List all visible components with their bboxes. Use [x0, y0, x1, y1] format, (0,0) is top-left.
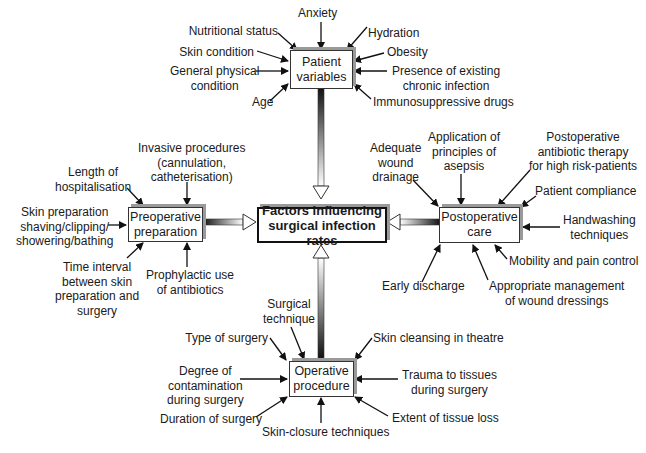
antib-line-3: for high risk-patients — [529, 159, 637, 173]
big-arrow-postop-to-center — [387, 214, 440, 230]
time-line-1: Time interval — [63, 260, 131, 274]
dress-line-2: of wound dressings — [505, 294, 608, 308]
factor-time-interval: Time intervalbetween skinpreparation and… — [55, 260, 139, 318]
technique-line-1: Surgical — [267, 297, 310, 311]
chronic-line-1: Presence of existing — [392, 64, 500, 78]
operative-procedure-box: Operativeprocedure — [289, 361, 354, 397]
drainage-line-1: Adequate — [370, 141, 421, 155]
factor-hydration: Hydration — [368, 26, 419, 41]
hand-line-2: techniques — [570, 228, 628, 242]
factor-skin-closure-techniques: Skin-closure techniques — [262, 425, 389, 440]
drainage-line-2: wound — [378, 156, 413, 170]
patient-title-2: variables — [296, 70, 346, 84]
skinprep-line-2: shaving/clipping/ — [20, 220, 109, 234]
factor-length-of-hospitalisation: Length ofhospitalisation — [55, 165, 131, 194]
factor-degree-of-contamination: Degree ofcontaminationduring surgery — [167, 364, 244, 408]
factor-skin-condition: Skin condition — [179, 45, 254, 60]
chronic-line-2: chronic infection — [403, 79, 490, 93]
degree-line-3: during surgery — [167, 393, 244, 407]
time-line-3: preparation and — [55, 289, 139, 303]
asepsis-line-2: principles of — [432, 145, 496, 159]
technique-line-2: technique — [263, 312, 315, 326]
factor-age: Age — [252, 95, 273, 110]
postop-title-2: care — [467, 225, 491, 239]
preop-title-2: preparation — [134, 225, 197, 239]
time-line-2: between skin — [62, 275, 132, 289]
factor-mobility-pain-control: Mobility and pain control — [509, 254, 638, 269]
prophy-line-2: of antibiotics — [157, 283, 224, 297]
trauma-line-1: Trauma to tissues — [402, 368, 497, 382]
factor-prophylactic-antibiotics: Prophylactic useof antibiotics — [146, 268, 234, 297]
length-line-2: hospitalisation — [55, 180, 131, 194]
length-line-1: Length of — [68, 165, 118, 179]
factor-handwashing-techniques: Handwashingtechniques — [563, 213, 636, 242]
factor-wound-drainage: Adequatewounddrainage — [370, 141, 421, 185]
patient-title-1: Patient — [302, 55, 341, 69]
factor-postoperative-antibiotic-therapy: Postoperativeantibiotic therapyfor high … — [529, 130, 637, 174]
invasive-line-1: Invasive procedures — [138, 141, 245, 155]
big-arrow-patient-to-center — [313, 88, 329, 199]
antib-line-1: Postoperative — [546, 130, 619, 144]
factor-early-discharge: Early discharge — [382, 279, 465, 294]
big-arrow-preop-to-center — [203, 214, 256, 230]
postoperative-care-box: Postoperativecare — [439, 207, 520, 243]
skinprep-line-1: Skin preparation — [21, 205, 108, 219]
factor-general-physical-condition: General physicalcondition — [170, 64, 259, 93]
big-arrow-operative-to-center — [313, 245, 329, 358]
factor-wound-dressings: Appropriate managementof wound dressings — [489, 279, 624, 308]
degree-line-2: contamination — [168, 379, 243, 393]
factor-chronic-infection: Presence of existingchronic infection — [392, 64, 500, 93]
postop-title-1: Postoperative — [441, 210, 517, 224]
factor-principles-of-asepsis: Application ofprinciples ofasepsis — [428, 130, 500, 174]
factor-skin-cleansing-theatre: Skin cleansing in theatre — [373, 331, 504, 346]
trauma-line-2: during surgery — [411, 383, 488, 397]
factor-surgical-technique: Surgicaltechnique — [263, 297, 315, 326]
center-title-2: surgical infection rates — [268, 218, 376, 248]
factor-nutritional-status: Nutritional status — [189, 24, 278, 39]
skinprep-line-3: showering/bathing — [16, 234, 113, 248]
factor-skin-preparation: Skin preparationshaving/clipping/showeri… — [16, 205, 113, 249]
general-line-2: condition — [191, 79, 239, 93]
preoperative-preparation-box: Preoperativepreparation — [128, 207, 203, 242]
center-title-1: Factors influencing — [262, 203, 382, 218]
antib-line-2: antibiotic therapy — [538, 145, 629, 159]
hand-line-1: Handwashing — [563, 213, 636, 227]
factor-immunosuppressive-drugs: Immunosuppressive drugs — [373, 95, 514, 110]
factor-invasive-procedures: Invasive procedures(cannulation,catheter… — [138, 141, 245, 185]
drainage-line-3: drainage — [372, 170, 419, 184]
factor-extent-of-tissue-loss: Extent of tissue loss — [392, 411, 499, 426]
factor-anxiety: Anxiety — [298, 6, 337, 21]
patient-variables-box: Patientvariables — [290, 50, 353, 89]
prophy-line-1: Prophylactic use — [146, 268, 234, 282]
time-line-4: surgery — [77, 304, 117, 318]
factor-type-of-surgery: Type of surgery — [185, 331, 268, 346]
general-line-1: General physical — [170, 64, 259, 78]
dress-line-1: Appropriate management — [489, 279, 624, 293]
invasive-line-2: (cannulation, — [157, 156, 226, 170]
factor-obesity: Obesity — [387, 45, 428, 60]
asepsis-line-3: asepsis — [444, 159, 485, 173]
factor-duration-of-surgery: Duration of surgery — [160, 412, 262, 427]
degree-line-1: Degree of — [179, 364, 232, 378]
preop-title-1: Preoperative — [130, 210, 201, 224]
asepsis-line-1: Application of — [428, 130, 500, 144]
factor-patient-compliance: Patient compliance — [535, 184, 636, 199]
operative-title-1: Operative — [294, 364, 348, 378]
center-box: Factors influencingsurgical infection ra… — [257, 207, 387, 243]
invasive-line-3: catheterisation) — [151, 170, 233, 184]
operative-title-2: procedure — [293, 379, 349, 393]
factor-trauma-to-tissues: Trauma to tissuesduring surgery — [402, 368, 497, 397]
